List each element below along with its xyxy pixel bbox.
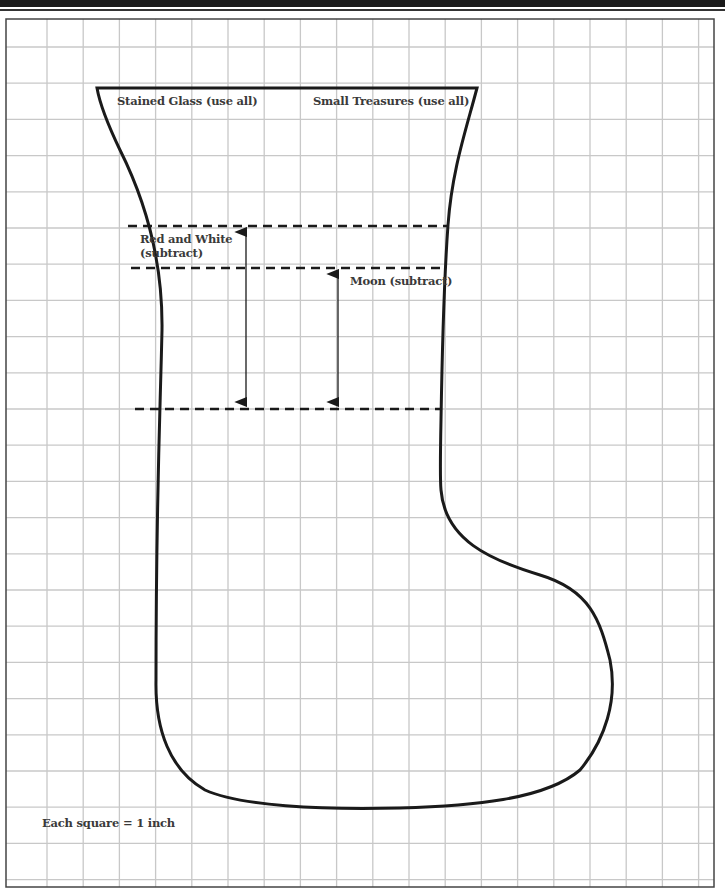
label-scale-note: Each square = 1 inch bbox=[42, 816, 175, 831]
label-moon: Moon (subtract) bbox=[350, 274, 452, 289]
label-red-and-white: Red and White bbox=[140, 232, 232, 247]
grid-lines bbox=[6, 19, 714, 887]
pattern-drawing bbox=[0, 0, 725, 892]
frame-border bbox=[6, 19, 714, 887]
label-small-treasures: Small Treasures (use all) bbox=[313, 94, 469, 109]
stocking-outline bbox=[97, 88, 612, 808]
label-stained-glass: Stained Glass (use all) bbox=[117, 94, 257, 109]
label-red-and-white-subtract: (subtract) bbox=[140, 246, 203, 261]
